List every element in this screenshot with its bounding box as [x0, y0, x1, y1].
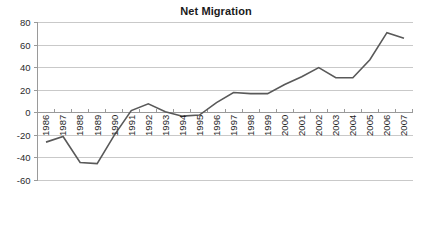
y-tick-label-40: 40 [20, 62, 31, 73]
x-tick-label-1995: 1995 [194, 115, 205, 136]
x-tick-label-1991: 1991 [126, 115, 137, 136]
x-tick-label-2005: 2005 [364, 115, 375, 136]
x-tick-label-1998: 1998 [245, 115, 256, 136]
y-tick-label--40: -40 [17, 152, 31, 163]
x-tick-label-1992: 1992 [143, 115, 154, 136]
x-tick-label-2000: 2000 [279, 115, 290, 136]
x-tick-label-2002: 2002 [313, 115, 324, 136]
y-tick-label-20: 20 [20, 85, 31, 96]
x-tick-label-1994: 1994 [177, 115, 188, 136]
x-tick-label-1993: 1993 [160, 115, 171, 136]
x-tick-label-1997: 1997 [228, 115, 239, 136]
x-axis-tick-labels: 1986198719881989199019911992199319941995… [40, 115, 409, 136]
x-tick-label-2006: 2006 [381, 115, 392, 136]
y-tick-label--60: -60 [17, 175, 31, 186]
x-tick-label-2003: 2003 [330, 115, 341, 136]
y-tick-label-60: 60 [20, 40, 31, 51]
series-line-net-migration [46, 33, 404, 164]
data-series-net-migration [46, 33, 404, 164]
y-tick-label--20: -20 [17, 130, 31, 141]
x-tick-label-1988: 1988 [75, 115, 86, 136]
gridlines [38, 23, 413, 181]
y-axis: 806040200-20-40-60 [17, 17, 38, 186]
x-tick-label-1999: 1999 [262, 115, 273, 136]
x-tick-label-1996: 1996 [211, 115, 222, 136]
y-tick-label-0: 0 [25, 107, 30, 118]
chart-container: Net Migration 806040200-20-40-60 1986198… [0, 0, 432, 233]
x-tick-label-1987: 1987 [57, 115, 68, 136]
x-tick-label-1990: 1990 [109, 115, 120, 136]
y-tick-label-80: 80 [20, 17, 31, 28]
x-tick-label-1986: 1986 [40, 115, 51, 136]
net-migration-line-chart: 806040200-20-40-60 198619871988198919901… [0, 0, 432, 233]
x-tick-label-2004: 2004 [347, 115, 358, 136]
x-axis [38, 109, 413, 113]
x-tick-label-1989: 1989 [92, 115, 103, 136]
x-tick-label-2007: 2007 [398, 115, 409, 136]
x-tick-label-2001: 2001 [296, 115, 307, 136]
